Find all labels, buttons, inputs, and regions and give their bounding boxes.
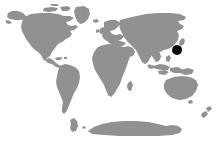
world-map-figure: World map with a black marker over Japan… [0,0,220,146]
location-marker-japan[interactable] [172,45,182,55]
world-map-graphic [0,0,220,146]
